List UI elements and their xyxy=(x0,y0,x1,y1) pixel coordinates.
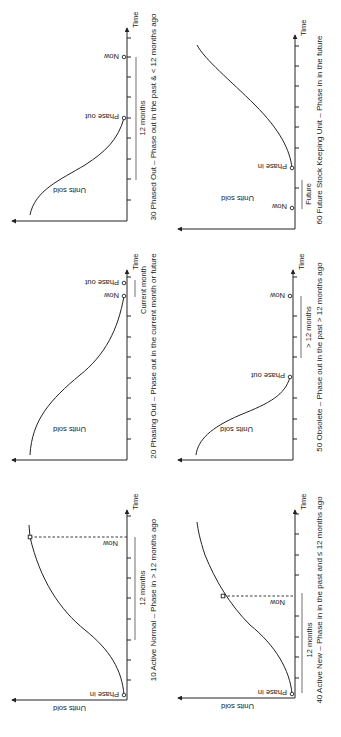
units-sold-label: Units sold xyxy=(53,186,86,195)
time-ticks xyxy=(295,46,299,188)
span-label: 12 months xyxy=(305,622,314,657)
panel-40-active-new: Phase in Now Units sold Time 12 months 4… xyxy=(178,494,324,711)
time-ticks xyxy=(127,277,131,439)
now-marker xyxy=(290,206,294,210)
now-label: Now xyxy=(271,202,287,211)
now-label: Now xyxy=(103,291,119,300)
sales-curve xyxy=(196,377,290,455)
phase-out-label: Phase out xyxy=(84,278,119,287)
span-label: > 12 months xyxy=(304,306,313,348)
sales-curve xyxy=(197,522,292,694)
sales-curve xyxy=(30,118,124,215)
phase-out-marker xyxy=(122,116,126,120)
sales-curve xyxy=(197,45,292,168)
panel-50-obsolete: Phase out Now Units sold Time > 12 month… xyxy=(178,254,324,460)
now-label: Now xyxy=(269,598,285,607)
now-label: Now xyxy=(103,52,119,61)
now-marker xyxy=(221,594,225,598)
now-marker xyxy=(288,294,292,298)
now-marker xyxy=(28,535,32,539)
sku-lifecycle-diagram: Phase out Now Units sold Time 12 months … xyxy=(0,0,341,737)
phase-out-marker xyxy=(288,375,292,379)
span-label: Future xyxy=(304,183,313,205)
panel-30-phased-out: Phase out Now Units sold Time 12 months … xyxy=(12,12,158,221)
units-sold-label: Units sold xyxy=(220,425,253,434)
time-label: Time xyxy=(299,494,308,510)
time-label: Time xyxy=(131,12,140,28)
phase-in-label: Phase in xyxy=(258,688,287,697)
panel-caption: 60 Future Stock Keeping Unit – Phase in … xyxy=(315,35,324,225)
span-label: 12 months xyxy=(138,570,147,605)
phase-in-marker xyxy=(290,166,294,170)
phase-out-marker xyxy=(122,281,126,285)
phase-in-marker xyxy=(122,693,126,697)
phase-out-label: Phase out xyxy=(84,112,119,121)
span-label: Current month xyxy=(139,266,148,314)
panel-caption: 40 Active New – Phase in in the past and… xyxy=(315,496,324,704)
phase-out-label: Phase out xyxy=(250,371,285,380)
span-label: 12 months xyxy=(138,100,147,135)
time-ticks xyxy=(127,516,131,680)
now-label: Now xyxy=(269,291,285,300)
time-label: Time xyxy=(131,494,140,510)
panel-caption: 20 Phasing Out – Phase out in the curren… xyxy=(149,253,158,459)
phase-in-marker xyxy=(290,692,294,696)
phase-in-label: Phase in xyxy=(90,690,119,699)
time-label: Time xyxy=(297,254,306,270)
now-marker xyxy=(122,55,126,59)
time-ticks xyxy=(293,277,297,439)
panel-caption: 30 Phased Out – Phase out in the past & … xyxy=(149,13,158,221)
panel-caption: 50 Obsolete – Phase out in the past > 12… xyxy=(315,262,324,452)
panel-10-active-normal: Phase in Now Units sold Time 12 months 1… xyxy=(12,494,158,713)
units-sold-label: Units sold xyxy=(53,704,86,713)
phase-in-label: Phase in xyxy=(258,162,287,171)
units-sold-label: Units sold xyxy=(221,702,254,711)
time-label: Time xyxy=(299,20,308,36)
units-sold-label: Units sold xyxy=(53,425,86,434)
panel-20-phasing-out: Phase out Now Units sold Time Current mo… xyxy=(12,253,158,460)
now-label: Now xyxy=(102,539,118,548)
panel-caption: 10 Active Normal – Phase in > 12 months … xyxy=(149,518,158,681)
panel-60-future-sku: Phase in Now Units sold Time Future 60 F… xyxy=(178,20,324,229)
sales-curve xyxy=(29,525,124,695)
time-ticks xyxy=(127,38,131,200)
now-marker xyxy=(122,294,126,298)
units-sold-label: Units sold xyxy=(221,194,254,203)
time-ticks xyxy=(295,514,299,678)
